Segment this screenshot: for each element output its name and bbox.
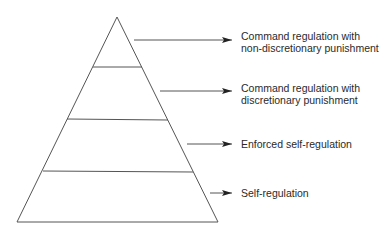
level-2-label: Command regulation with discretionary pu…: [241, 82, 360, 106]
level-4-label: Self-regulation: [241, 187, 309, 199]
level-1-label: Command regulation with non-discretionar…: [241, 30, 379, 54]
level-1-label-line-2: non-discretionary punishment: [241, 42, 379, 54]
level-1-label-line-1: Command regulation with: [241, 30, 379, 42]
tier-divider-2: [67, 119, 168, 120]
level-2-label-line-2: discretionary punishment: [241, 94, 360, 106]
level-4-label-line-1: Self-regulation: [241, 187, 309, 199]
tier-divider-3: [43, 171, 193, 172]
level-3-label: Enforced self-regulation: [241, 138, 352, 150]
level-2-label-line-1: Command regulation with: [241, 82, 360, 94]
level-3-label-line-1: Enforced self-regulation: [241, 138, 352, 150]
